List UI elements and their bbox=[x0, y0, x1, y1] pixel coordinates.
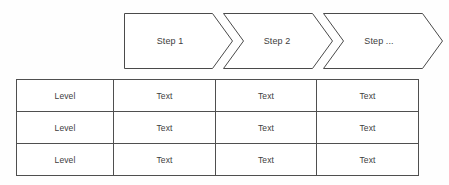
process-step-2[interactable]: Step 2 bbox=[223, 13, 333, 69]
table-cell-level[interactable]: Level bbox=[17, 144, 114, 176]
process-step-2-label: Step 2 bbox=[231, 13, 323, 69]
diagram-canvas: Step 1 Step 2 Step ... Level Text Text T… bbox=[0, 0, 449, 185]
table-row: Level Text Text Text bbox=[17, 112, 419, 144]
table-cell-level[interactable]: Level bbox=[17, 112, 114, 144]
process-step-1-label: Step 1 bbox=[124, 13, 216, 69]
table-cell-text[interactable]: Text bbox=[216, 112, 317, 144]
process-step-3[interactable]: Step ... bbox=[323, 13, 443, 69]
table-cell-text[interactable]: Text bbox=[317, 80, 419, 112]
table-cell-level[interactable]: Level bbox=[17, 80, 114, 112]
table-row: Level Text Text Text bbox=[17, 80, 419, 112]
matrix-table: Level Text Text Text Level Text Text Tex… bbox=[16, 79, 419, 176]
table-cell-text[interactable]: Text bbox=[216, 144, 317, 176]
table-cell-text[interactable]: Text bbox=[114, 112, 216, 144]
table-cell-text[interactable]: Text bbox=[114, 144, 216, 176]
table-cell-text[interactable]: Text bbox=[114, 80, 216, 112]
table-cell-text[interactable]: Text bbox=[317, 112, 419, 144]
table-cell-text[interactable]: Text bbox=[216, 80, 317, 112]
table-row: Level Text Text Text bbox=[17, 144, 419, 176]
process-chevron-row: Step 1 Step 2 Step ... bbox=[0, 0, 449, 78]
table-cell-text[interactable]: Text bbox=[317, 144, 419, 176]
process-step-3-label: Step ... bbox=[331, 13, 427, 69]
process-step-1[interactable]: Step 1 bbox=[124, 13, 233, 69]
